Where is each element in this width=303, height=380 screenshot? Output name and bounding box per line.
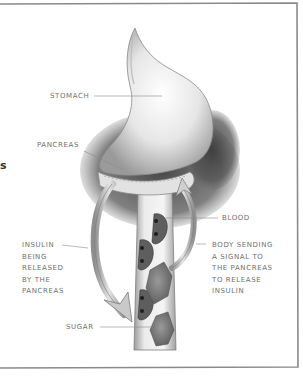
- leader-insulin: [62, 245, 88, 248]
- diagram-canvas: s STOMACH PANCREAS BLOOD INSULIN BEING R…: [0, 0, 303, 380]
- cropped-text-fragment: s: [0, 159, 7, 172]
- label-stomach: STOMACH: [50, 91, 89, 103]
- stomach-organ: [100, 28, 213, 175]
- label-pancreas: PANCREAS: [37, 140, 79, 152]
- label-insulin-released: INSULIN BEING RELEASED BY THE PANCREAS: [22, 240, 64, 298]
- label-blood: BLOOD: [222, 213, 250, 225]
- label-sugar: SUGAR: [66, 322, 94, 334]
- label-body-signal: BODY SENDING A SIGNAL TO THE PANCREAS TO…: [212, 240, 273, 298]
- illustration: [0, 0, 303, 380]
